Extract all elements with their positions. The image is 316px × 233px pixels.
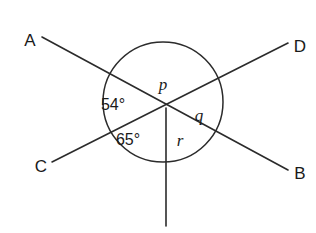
point-label-c: C [35,157,47,176]
angle-label-p: p [158,75,168,94]
point-label-a: A [24,31,36,50]
angle-label-r: r [177,131,184,150]
geometry-diagram: A D C B 54° 65° p q r [0,0,316,233]
point-label-b: B [294,164,305,183]
angle-label-65: 65° [116,131,140,148]
angle-label-q: q [195,106,204,125]
angle-label-54: 54° [101,96,125,113]
point-label-d: D [294,37,306,56]
geometry-canvas: A D C B 54° 65° p q r [0,0,316,233]
line-ab [42,37,288,170]
